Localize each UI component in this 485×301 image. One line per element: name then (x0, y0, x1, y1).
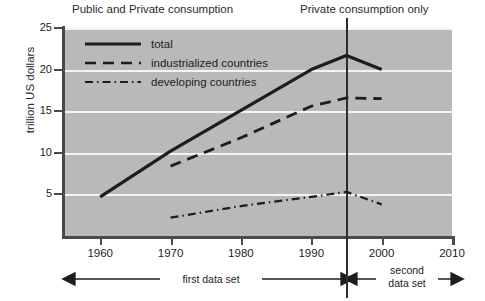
x-tick-1970 (171, 236, 173, 245)
y-tick-label-5: 5 (26, 187, 52, 199)
y-tick-25 (54, 27, 62, 29)
x-tick-label-1960: 1960 (80, 247, 120, 259)
x-tick-label-2010: 2010 (432, 247, 472, 259)
legend-item-developing: developing countries (83, 72, 268, 91)
annotation-second-data-set-line1: second (376, 264, 438, 276)
y-tick-label-15: 15 (26, 104, 52, 116)
x-tick-1990 (311, 236, 313, 245)
plot-area: total industrialized countries developin… (65, 28, 452, 236)
y-tick-label-20: 20 (26, 63, 52, 75)
legend-key-dash-dot-icon (83, 76, 143, 88)
x-tick-label-1990: 1990 (291, 247, 331, 259)
y-tick-10 (54, 152, 62, 154)
legend-item-total: total (83, 34, 268, 53)
annotation-first-data-set: first data set (160, 273, 262, 285)
y-tick-15 (54, 110, 62, 112)
legend-label-industrialized: industrialized countries (151, 57, 268, 69)
header-left-region-label: Public and Private consumption (72, 3, 233, 15)
y-tick-label-25: 25 (26, 21, 52, 33)
x-tick-label-1980: 1980 (221, 247, 261, 259)
y-tick-20 (54, 69, 62, 71)
y-tick-5 (54, 193, 62, 195)
y-axis-title: trillion US dollars (24, 15, 36, 165)
series-line-developing (171, 192, 382, 218)
x-tick-label-1970: 1970 (151, 247, 191, 259)
y-tick-label-10: 10 (26, 146, 52, 158)
x-tick-1980 (241, 236, 243, 245)
annotation-divider-line (346, 264, 348, 298)
dataset-range-annotations: first data set second data set (0, 262, 485, 301)
legend-key-dashed-icon (83, 57, 143, 69)
legend-key-solid-icon (83, 38, 143, 50)
x-tick-1960 (100, 236, 102, 245)
annotation-second-data-set-line2: data set (376, 277, 438, 289)
header-right-region-label: Private consumption only (300, 3, 428, 15)
legend-label-developing: developing countries (151, 76, 257, 88)
x-axis-line (62, 236, 455, 239)
chart-figure: Public and Private consumption Private c… (0, 0, 485, 301)
x-tick-2010 (452, 236, 454, 245)
legend-label-total: total (151, 38, 173, 50)
x-tick-2000 (382, 236, 384, 245)
x-tick-label-2000: 2000 (362, 247, 402, 259)
legend: total industrialized countries developin… (83, 34, 268, 91)
legend-item-industrialized: industrialized countries (83, 53, 268, 72)
